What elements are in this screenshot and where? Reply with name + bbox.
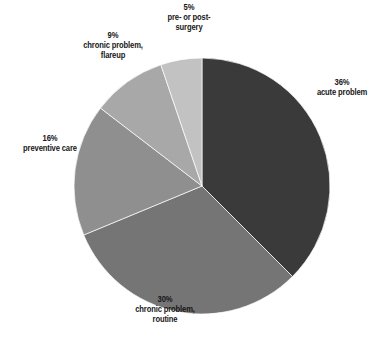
slice-percent-pre-or-post-surgery: 5%: [143, 3, 234, 13]
slice-percent-preventive-care: 16%: [5, 134, 94, 144]
slice-percent-acute-problem: 36%: [302, 78, 382, 88]
pie-slice-group: [74, 58, 330, 314]
slice-name-chronic-problem-flareup-line2: flareup: [62, 51, 164, 61]
slice-name-preventive-care: preventive care: [5, 144, 94, 154]
slice-label-chronic-problem-flareup: 9% chronic problem, flareup: [62, 31, 164, 62]
slice-label-preventive-care: 16% preventive care: [5, 134, 94, 154]
slice-name-acute-problem: acute problem: [302, 88, 382, 98]
slice-name-chronic-problem-flareup-line1: chronic problem,: [62, 41, 164, 51]
slice-label-chronic-problem-routine: 30% chronic problem, routine: [108, 295, 221, 326]
slice-label-acute-problem: 36% acute problem: [302, 78, 382, 98]
slice-name-chronic-problem-routine-line1: chronic problem,: [108, 305, 221, 315]
slice-percent-chronic-problem-routine: 30%: [108, 295, 221, 305]
pie-chart-svg: [0, 0, 388, 341]
slice-name-chronic-problem-routine-line2: routine: [108, 315, 221, 325]
slice-name-pre-or-post-surgery-line2: surgery: [143, 23, 234, 33]
slice-label-pre-or-post-surgery: 5% pre- or post- surgery: [143, 3, 234, 34]
slice-name-pre-or-post-surgery-line1: pre- or post-: [143, 13, 234, 23]
pie-chart-figure: 36% acute problem 30% chronic problem, r…: [0, 0, 388, 341]
